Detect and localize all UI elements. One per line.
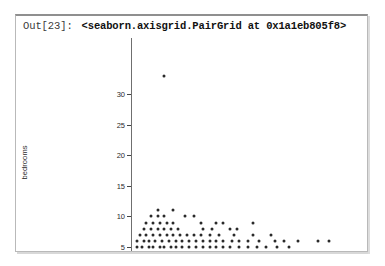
scatter-point — [269, 233, 272, 236]
y-axis-tick-labels: 51015202530 — [101, 36, 125, 252]
scatter-point — [217, 233, 220, 236]
scatter-point — [174, 239, 177, 242]
scatter-point — [136, 246, 139, 249]
scatter-plot-canvas[interactable] — [131, 36, 368, 252]
scatter-point — [165, 221, 168, 224]
scatter-point — [143, 239, 146, 242]
scatter-point — [170, 227, 173, 230]
scatter-point — [183, 215, 186, 218]
scatter-point — [274, 239, 277, 242]
scatter-point — [208, 246, 211, 249]
scatter-point — [215, 239, 218, 242]
matplotlib-figure[interactable]: bedrooms 51015202530 — [16, 36, 368, 252]
scatter-point — [156, 209, 159, 212]
scatter-point — [222, 246, 225, 249]
notebook-output-cell[interactable]: Out[23]: <seaborn.axisgrid.PairGrid at 0… — [15, 14, 368, 252]
scatter-point — [228, 227, 231, 230]
scatter-point — [199, 233, 202, 236]
scatter-point — [140, 246, 143, 249]
y-tick-label-25: 25 — [103, 120, 125, 129]
scatter-point — [258, 239, 261, 242]
scatter-point — [247, 239, 250, 242]
scatter-point — [276, 246, 279, 249]
scatter-point — [201, 239, 204, 242]
scatter-point — [149, 227, 152, 230]
scatter-point — [156, 215, 159, 218]
scatter-point — [201, 246, 204, 249]
output-prompt-label: Out[23]: — [23, 20, 73, 32]
scatter-point — [179, 233, 182, 236]
scatter-point — [145, 221, 148, 224]
scatter-point — [158, 221, 161, 224]
scatter-point — [251, 221, 254, 224]
scatter-point — [199, 221, 202, 224]
scatter-point — [233, 233, 236, 236]
scatter-point — [136, 239, 139, 242]
scatter-point — [247, 246, 250, 249]
scatter-point — [145, 233, 148, 236]
cell-shadow-right — [368, 16, 370, 254]
scatter-point — [163, 227, 166, 230]
scatter-point — [328, 239, 331, 242]
scatter-point — [165, 233, 168, 236]
scatter-point — [152, 233, 155, 236]
scatter-point — [188, 239, 191, 242]
scatter-point — [195, 246, 198, 249]
scatter-point — [208, 233, 211, 236]
scatter-point — [228, 246, 231, 249]
scatter-point — [149, 215, 152, 218]
scatter-point — [283, 239, 286, 242]
scatter-point — [147, 246, 150, 249]
scatter-point — [174, 246, 177, 249]
scatter-point — [181, 246, 184, 249]
scatter-point — [188, 246, 191, 249]
scatter-point — [161, 239, 164, 242]
scatter-point — [265, 246, 268, 249]
scatter-point — [287, 246, 290, 249]
cell-shadow-bottom — [17, 252, 368, 254]
scatter-point — [156, 227, 159, 230]
scatter-point — [237, 246, 240, 249]
scatter-point — [231, 239, 234, 242]
y-tick-label-20: 20 — [103, 151, 125, 160]
scatter-point — [235, 227, 238, 230]
scatter-point — [163, 74, 166, 77]
scatter-point — [143, 227, 146, 230]
scatter-point — [256, 246, 259, 249]
y-tick-label-15: 15 — [103, 181, 125, 190]
y-tick-label-10: 10 — [103, 212, 125, 221]
scatter-point — [158, 246, 161, 249]
scatter-point — [317, 239, 320, 242]
scatter-point — [172, 221, 175, 224]
y-axis-label: bedrooms — [20, 131, 29, 195]
scatter-point — [172, 209, 175, 212]
scatter-point — [147, 239, 150, 242]
scatter-point — [192, 233, 195, 236]
scatter-point — [215, 246, 218, 249]
scatter-point — [158, 233, 161, 236]
output-prompt-row: Out[23]: <seaborn.axisgrid.PairGrid at 0… — [16, 16, 367, 36]
scatter-point — [237, 239, 240, 242]
scatter-point — [222, 239, 225, 242]
scatter-point — [201, 227, 204, 230]
scatter-point — [251, 233, 254, 236]
scatter-point — [195, 239, 198, 242]
scatter-point — [138, 233, 141, 236]
y-tick-label-30: 30 — [103, 90, 125, 99]
object-repr-text: <seaborn.axisgrid.PairGrid at 0x1a1eb805… — [82, 20, 347, 32]
scatter-point — [210, 227, 213, 230]
scatter-point — [152, 246, 155, 249]
scatter-point — [152, 221, 155, 224]
scatter-point — [163, 246, 166, 249]
scatter-point — [296, 239, 299, 242]
scatter-point — [172, 233, 175, 236]
y-tick-label-5: 5 — [103, 243, 125, 252]
scatter-point — [222, 221, 225, 224]
scatter-point — [185, 233, 188, 236]
scatter-point — [167, 239, 170, 242]
scatter-point — [181, 239, 184, 242]
scatter-point — [208, 239, 211, 242]
scatter-point — [154, 239, 157, 242]
scatter-point — [192, 215, 195, 218]
scatter-point — [170, 246, 173, 249]
